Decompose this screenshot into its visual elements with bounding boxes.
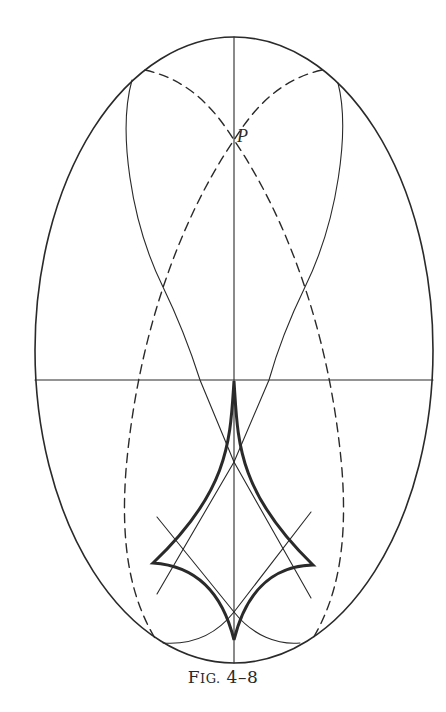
figure-diagram (0, 0, 446, 712)
solid-curve-lower-left (163, 512, 311, 643)
caption-number: 4–8 (221, 667, 259, 687)
caption-smallcaps: IG. (200, 671, 221, 686)
caption-prefix: F (188, 667, 200, 687)
solid-curve-upper-left (126, 80, 311, 598)
point-p-label: P (237, 126, 248, 147)
dashed-curve-right-to-left (124, 70, 322, 640)
figure-caption: FIG. 4–8 (0, 667, 446, 687)
astroid-evolute (153, 381, 313, 640)
dashed-curve-left-to-right (145, 70, 344, 640)
